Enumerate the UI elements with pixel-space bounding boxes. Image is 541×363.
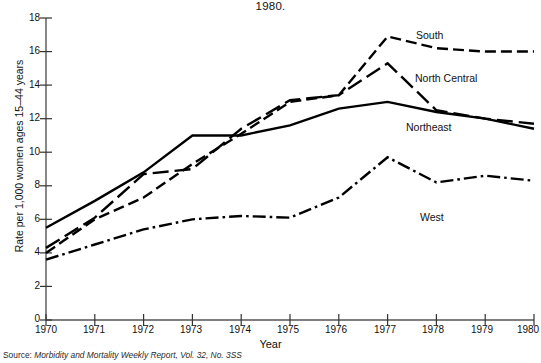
series-line-north-central (46, 63, 534, 248)
series-paths (46, 36, 534, 259)
source-text: Morbidity and Mortality Weekly Report, V… (32, 350, 242, 360)
chart-figure: 1980. Rate per 1,000 women ages 15–44 ye… (0, 0, 541, 363)
source-lead: Source: (3, 350, 32, 360)
series-line-south (46, 36, 534, 252)
source-note: Source: Morbidity and Mortality Weekly R… (3, 350, 242, 360)
plot-area (0, 0, 541, 363)
